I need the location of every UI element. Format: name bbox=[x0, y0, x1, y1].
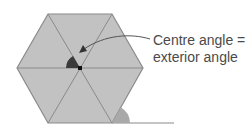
hexagon-diagram: Centre angle = exterior angle bbox=[0, 0, 248, 129]
label-line-1: Centre angle = bbox=[153, 32, 245, 48]
label-line-2: exterior angle bbox=[153, 49, 238, 65]
centre-point bbox=[78, 66, 82, 70]
